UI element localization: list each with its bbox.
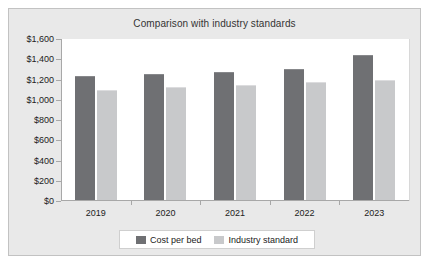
- x-axis-tick-label: 2020: [135, 208, 195, 218]
- y-axis-tick: [56, 80, 61, 81]
- bar-cost-per-bed-2022: [284, 69, 304, 201]
- legend-swatch-icon-cost-per-bed: [136, 236, 146, 244]
- y-axis-line: [61, 39, 62, 201]
- legend-item-industry-standard: Industry standard: [214, 235, 298, 245]
- y-axis-tick-label: $1,600: [10, 34, 54, 44]
- legend-swatch-icon-industry-standard: [214, 236, 224, 244]
- y-axis-tick-label: $200: [10, 176, 54, 186]
- chart-title: Comparison with industry standards: [9, 18, 420, 29]
- legend-label-cost-per-bed: Cost per bed: [150, 235, 202, 245]
- plot-area: [61, 39, 409, 201]
- bar-industry-standard-2020: [166, 87, 186, 201]
- bar-cost-per-bed-2020: [144, 74, 164, 201]
- x-axis-tick-label: 2021: [205, 208, 265, 218]
- y-axis-tick-label: $600: [10, 135, 54, 145]
- y-axis-tick: [56, 181, 61, 182]
- y-axis-tick: [56, 120, 61, 121]
- bar-industry-standard-2019: [97, 90, 117, 201]
- plot-right-border: [409, 39, 410, 201]
- y-axis-tick-label: $1,400: [10, 54, 54, 64]
- bar-industry-standard-2023: [375, 80, 395, 201]
- y-axis-tick: [56, 59, 61, 60]
- y-axis-tick-label: $800: [10, 115, 54, 125]
- bar-cost-per-bed-2019: [75, 76, 95, 201]
- y-axis-tick-label: $0: [10, 196, 54, 206]
- x-axis-tick: [270, 201, 271, 205]
- x-axis-tick: [339, 201, 340, 205]
- x-axis-line: [61, 200, 410, 201]
- legend-item-cost-per-bed: Cost per bed: [136, 235, 202, 245]
- bar-cost-per-bed-2023: [353, 55, 373, 201]
- x-axis-tick-label: 2019: [66, 208, 126, 218]
- x-axis-tick-label: 2023: [344, 208, 404, 218]
- bar-cost-per-bed-2021: [214, 72, 234, 201]
- chart-panel: Comparison with industry standards $0$20…: [8, 8, 421, 256]
- y-axis-tick: [56, 39, 61, 40]
- y-axis-tick: [56, 140, 61, 141]
- y-axis-tick: [56, 161, 61, 162]
- chart-legend: Cost per bed Industry standard: [119, 230, 315, 249]
- x-axis-tick: [200, 201, 201, 205]
- y-axis-labels: $0$200$400$600$800$1,000$1,200$1,400$1,6…: [9, 9, 54, 255]
- y-axis-tick-label: $1,200: [10, 75, 54, 85]
- y-axis-tick: [56, 100, 61, 101]
- bar-industry-standard-2021: [236, 85, 256, 201]
- x-axis-tick-label: 2022: [275, 208, 335, 218]
- y-axis-tick: [56, 201, 61, 202]
- y-axis-tick-label: $400: [10, 156, 54, 166]
- legend-label-industry-standard: Industry standard: [228, 235, 298, 245]
- bar-industry-standard-2022: [306, 82, 326, 201]
- x-axis-tick: [131, 201, 132, 205]
- y-axis-tick-label: $1,000: [10, 95, 54, 105]
